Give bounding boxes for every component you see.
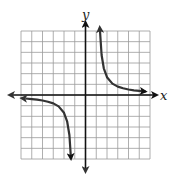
coordinate-plane: x y <box>0 0 173 176</box>
x-axis-label: x <box>160 88 168 103</box>
axes <box>13 22 157 168</box>
y-axis-label: y <box>81 7 90 22</box>
